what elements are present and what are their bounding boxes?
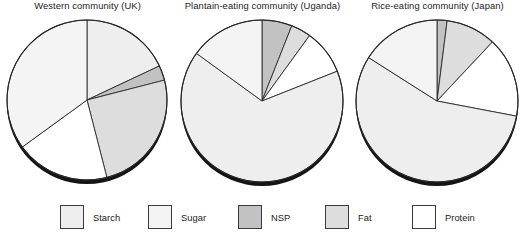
legend-item-fat: Fat — [325, 201, 372, 233]
legend-label-fat: Fat — [358, 212, 372, 223]
pie-2-canvas — [350, 16, 525, 196]
legend-swatch-nsp — [238, 205, 262, 229]
pie-0-canvas — [0, 16, 175, 196]
pie-chart-title-0: Western community (UK) — [0, 0, 175, 12]
pie-chart-figure: Western community (UK) Plantain-eating c… — [0, 0, 525, 241]
legend-label-sugar: Sugar — [181, 212, 206, 223]
legend-swatch-protein — [412, 205, 436, 229]
legend-item-protein: Protein — [412, 201, 475, 233]
pie-chart-title-2: Rice-eating community (Japan) — [350, 0, 525, 12]
legend: StarchSugarNSPFatProtein — [0, 201, 525, 241]
pie-chart-0 — [0, 16, 175, 196]
legend-swatch-fat — [325, 205, 349, 229]
pie-1-canvas — [175, 16, 350, 196]
legend-swatch-starch — [60, 205, 84, 229]
pie-chart-1 — [175, 16, 350, 196]
legend-swatch-sugar — [148, 205, 172, 229]
pie-chart-2 — [350, 16, 525, 196]
legend-item-sugar: Sugar — [148, 201, 206, 233]
legend-label-protein: Protein — [445, 212, 475, 223]
pie-chart-title-1: Plantain-eating community (Uganda) — [175, 0, 350, 12]
legend-item-starch: Starch — [60, 201, 120, 233]
legend-label-starch: Starch — [93, 212, 120, 223]
legend-item-nsp: NSP — [238, 201, 290, 233]
legend-label-nsp: NSP — [271, 212, 290, 223]
